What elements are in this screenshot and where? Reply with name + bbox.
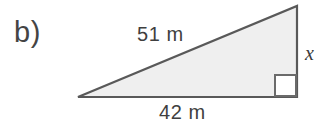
base-length-label: 42 m <box>159 102 206 122</box>
hypotenuse-length-label: 51 m <box>137 24 184 44</box>
figure-panel: b) 51 m 42 m x <box>0 0 333 130</box>
right-angle-marker-icon <box>275 75 296 96</box>
height-variable-label: x <box>305 43 314 63</box>
triangle-shape <box>78 6 297 97</box>
part-label: b) <box>14 18 41 47</box>
